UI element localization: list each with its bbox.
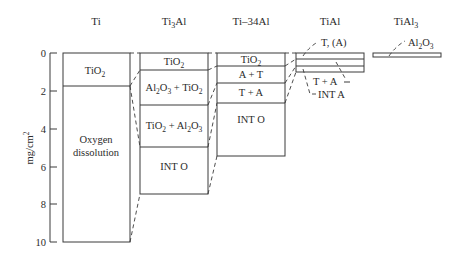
connector-ti3al-ti34al — [208, 53, 217, 194]
y-tick-8: 8 — [41, 199, 46, 210]
y-tick-10: 10 — [36, 237, 47, 248]
y-tick-6: 6 — [41, 162, 46, 173]
y-tick-2: 2 — [41, 86, 46, 97]
oxide-layer-diagram: Ti Ti3Al Ti–34Al TiAl TiAl3 0 2 4 6 8 10… — [0, 0, 459, 263]
layer-tial-int-a: INT A — [318, 89, 345, 100]
column-ti3al: TiO2 Al2O3 + TiO2 TiO2 + Al2O3 INT O — [140, 53, 208, 194]
layer-tial-t-a: T, (A) — [321, 37, 347, 49]
layer-ti3al-int-o: INT O — [160, 161, 188, 172]
y-axis: 0 2 4 6 8 10 mg/cm2 — [22, 48, 57, 248]
header-ti-34al: Ti–34Al — [233, 15, 270, 27]
y-tick-0: 0 — [41, 48, 46, 59]
layer-ti-oxygen-dissolution-line1: Oxygen — [79, 134, 113, 145]
layer-ti34al-a-t: A + T — [239, 69, 264, 80]
header-tial3: TiAl3 — [394, 15, 418, 30]
layer-ti34al-t-a: T + A — [239, 87, 264, 98]
header-ti3al: Ti3Al — [162, 15, 186, 30]
layer-tial3-al2o3: Al2O3 — [408, 37, 434, 51]
column-ti-34al: TiO2 A + T T + A INT O — [217, 53, 285, 156]
header-ti: Ti — [91, 15, 100, 27]
column-ti: TiO2 Oxygen dissolution — [63, 53, 130, 242]
y-axis-label: mg/cm2 — [22, 131, 35, 164]
y-tick-4: 4 — [41, 124, 47, 135]
header-tial: TiAl — [320, 15, 340, 27]
layer-ti34al-int-o: INT O — [237, 114, 265, 125]
connector-ti-ti3al — [130, 53, 140, 242]
layer-ti-oxygen-dissolution-line2: dissolution — [73, 147, 120, 158]
connector-ti34al-tial — [285, 53, 296, 103]
layer-tial-t-plus-a: T + A — [313, 76, 338, 87]
column-tial: T, (A) T + A INT A — [296, 37, 364, 100]
column-tial3: Al2O3 — [373, 37, 441, 57]
